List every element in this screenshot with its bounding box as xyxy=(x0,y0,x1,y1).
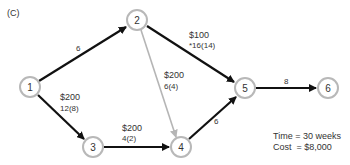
edge-2-5-time: *16(14) xyxy=(189,41,216,50)
node-4-label: 4 xyxy=(178,142,184,153)
edge-1-3-cost: $200 xyxy=(60,92,80,102)
edge-4-5-time: 6 xyxy=(214,117,219,126)
node-1-label: 1 xyxy=(27,82,33,93)
node-2-label: 2 xyxy=(134,15,140,26)
node-5-label: 5 xyxy=(242,83,248,94)
edge-3-4-cost: $200 xyxy=(122,123,142,133)
node-6-label: 6 xyxy=(325,83,331,94)
edge-2-5-cost: $100 xyxy=(189,30,209,40)
summary-box: Time = 30 weeks Cost = $8,000 xyxy=(273,131,341,153)
edge-1-2 xyxy=(39,27,126,81)
edge-1-2-time: 6 xyxy=(76,44,81,53)
edge-5-6-time: 8 xyxy=(284,77,289,86)
edge-1-3-time: 12(8) xyxy=(60,104,79,113)
node-4: 4 xyxy=(171,137,191,157)
node-3-label: 3 xyxy=(90,142,96,153)
summary-time: Time = 30 weeks xyxy=(273,131,341,142)
node-3: 3 xyxy=(83,137,103,157)
summary-cost: Cost = $8,000 xyxy=(273,142,341,153)
node-5: 5 xyxy=(235,78,255,98)
panel-label: (C) xyxy=(7,8,20,18)
node-6: 6 xyxy=(318,78,338,98)
edge-2-4-cost: $200 xyxy=(164,70,184,80)
node-1: 1 xyxy=(20,77,40,97)
node-2: 2 xyxy=(127,10,147,30)
edge-3-4-time: 4(2) xyxy=(122,134,137,143)
edge-4-5 xyxy=(189,97,236,139)
edge-2-4-time: 6(4) xyxy=(164,82,179,91)
